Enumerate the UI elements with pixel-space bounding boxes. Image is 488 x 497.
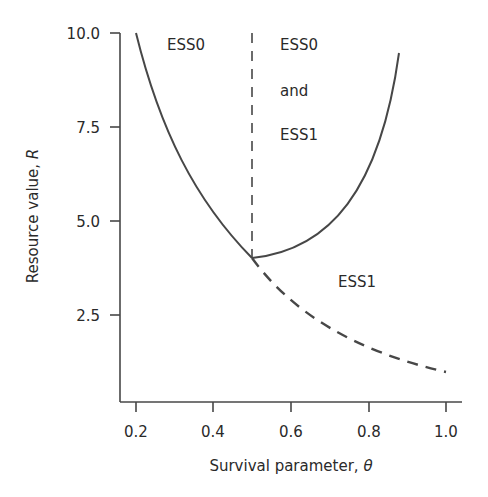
y-tick-label: 5.0	[76, 213, 100, 231]
x-axis-title: Survival parameter, θ	[209, 457, 372, 475]
region-label-both-line2: and	[280, 82, 308, 100]
y-tick-label: 10.0	[67, 25, 100, 43]
region-label-ess1: ESS1	[338, 273, 376, 291]
ess0-boundary-curve	[136, 33, 252, 258]
x-tick-label: 0.4	[201, 423, 225, 441]
x-tick-label: 0.2	[124, 423, 148, 441]
chart: 10.0 7.5 5.0 2.5 0.2 0.4 0.6 0.8 1.0 Sur…	[0, 0, 488, 497]
region-label-both-line1: ESS0	[280, 36, 318, 54]
x-tick-label: 0.8	[357, 423, 381, 441]
x-tick-label: 1.0	[434, 423, 458, 441]
y-tick-label: 2.5	[76, 307, 100, 325]
y-axis-title: Resource value, R	[24, 149, 42, 284]
y-tick-label: 7.5	[76, 119, 100, 137]
x-axis: 0.2 0.4 0.6 0.8 1.0	[120, 402, 462, 441]
region-label-both-line3: ESS1	[280, 126, 318, 144]
region-label-ess0: ESS0	[167, 36, 205, 54]
y-axis: 10.0 7.5 5.0 2.5	[67, 25, 120, 402]
upper-u-curve	[252, 53, 399, 258]
x-tick-label: 0.6	[279, 423, 303, 441]
